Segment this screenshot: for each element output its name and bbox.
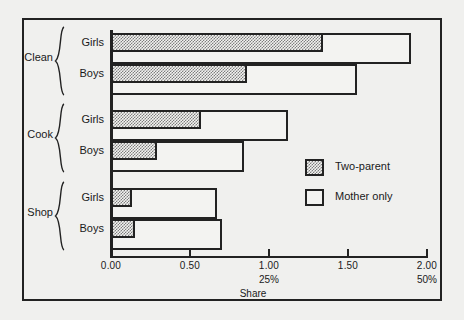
- chart-figure: 0.000.501.0025%1.502.0050% Share GirlsBo…: [0, 0, 464, 320]
- chart-frame: [22, 18, 442, 301]
